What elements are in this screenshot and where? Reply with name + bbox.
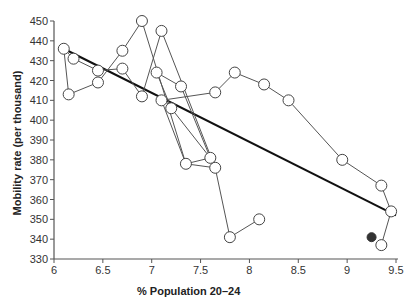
y-tick-label: 360 [30,194,48,206]
x-tick-label: 7 [149,264,155,276]
data-point [117,63,128,74]
x-axis: 66.577.588.599.5 [51,259,404,276]
y-tick-label: 370 [30,174,48,186]
scatter-chart: 330340350360370380390400410420430440450 … [0,0,415,303]
y-tick-label: 330 [30,253,48,265]
x-tick-label: 9.5 [388,264,403,276]
highlighted-data-point [367,233,376,242]
data-point [229,67,240,78]
data-point [180,158,191,169]
data-point [376,180,387,191]
y-axis: 330340350360370380390400410420430440450 [30,15,54,265]
y-tick-label: 400 [30,114,48,126]
data-point [386,206,397,217]
data-point [92,77,103,88]
y-tick-label: 450 [30,15,48,27]
highlight-point [367,233,376,242]
y-tick-label: 340 [30,233,48,245]
data-point [176,81,187,92]
y-tick-label: 410 [30,94,48,106]
y-axis-title: Mobility rate (per thousand) [11,70,23,215]
data-point [376,240,387,251]
data-point [224,232,235,243]
data-point [136,16,147,27]
data-point [259,79,270,90]
y-tick-label: 420 [30,75,48,87]
y-tick-label: 380 [30,154,48,166]
data-point [136,91,147,102]
x-tick-label: 6.5 [95,264,110,276]
data-point [117,45,128,56]
data-point [156,95,167,106]
data-point [210,87,221,98]
data-point [166,103,177,114]
data-point [156,25,167,36]
x-axis-title: % Population 20–24 [137,285,241,297]
data-point [68,53,79,64]
connected-series [58,16,396,251]
y-tick-label: 440 [30,35,48,47]
x-tick-label: 9 [344,264,350,276]
data-point [92,65,103,76]
x-tick-label: 8 [246,264,252,276]
data-point [254,214,265,225]
data-point [210,162,221,173]
y-tick-label: 350 [30,213,48,225]
data-point [337,154,348,165]
x-tick-label: 6 [51,264,57,276]
x-tick-label: 8.5 [291,264,306,276]
y-tick-label: 430 [30,55,48,67]
y-tick-label: 390 [30,134,48,146]
data-point [205,152,216,163]
x-tick-label: 7.5 [193,264,208,276]
data-point [58,43,69,54]
data-point [283,95,294,106]
data-point [151,67,162,78]
data-point [63,89,74,100]
